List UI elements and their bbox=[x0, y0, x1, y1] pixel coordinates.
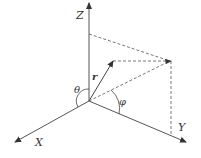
x-axis-label: X bbox=[34, 136, 44, 149]
r-label: r bbox=[92, 71, 98, 82]
theta-label: θ bbox=[74, 84, 80, 95]
y-axis-label: Y bbox=[178, 121, 187, 134]
spherical-coordinates-diagram: Z X Y r θ φ bbox=[0, 0, 201, 158]
z-axis-label: Z bbox=[75, 9, 84, 22]
phi-label: φ bbox=[119, 96, 126, 107]
y-axis bbox=[89, 101, 186, 142]
projection-lines bbox=[89, 34, 171, 136]
x-axis bbox=[15, 101, 89, 142]
